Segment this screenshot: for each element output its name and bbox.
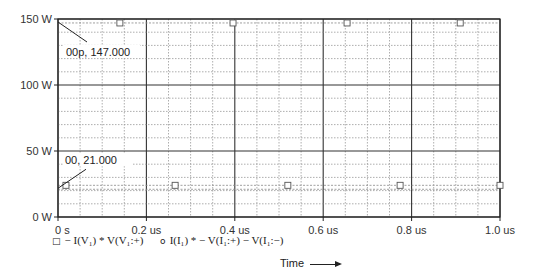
svg-text:0.8 us: 0.8 us	[397, 224, 427, 236]
right-arrow-icon	[310, 264, 340, 265]
x-axis-label: Time	[280, 257, 304, 269]
legend-item-power-v1: □− I(V₁) * V(V₁:+)	[52, 234, 143, 246]
svg-text:50 W: 50 W	[26, 145, 52, 157]
svg-text:00p, 147.000: 00p, 147.000	[66, 46, 130, 58]
legend-label: − I(V₁) * V(V₁:+)	[65, 234, 144, 246]
svg-text:1.0 us: 1.0 us	[485, 224, 515, 236]
annotations: 00p, 147.00000, 21.000	[58, 22, 140, 188]
svg-text:00, 21.000: 00, 21.000	[65, 154, 117, 166]
svg-text:150 W: 150 W	[20, 13, 52, 25]
legend: □− I(V₁) * V(V₁:+) οI(I₁) * − V(I₁:+) − …	[52, 234, 297, 246]
legend-item-power-i1: οI(I₁) * − V(I₁:+) − V(I₁:−)	[160, 234, 283, 246]
svg-text:0 W: 0 W	[32, 211, 52, 223]
square-marker-icon: □	[52, 236, 61, 246]
circle-marker-icon: ο	[160, 236, 166, 246]
svg-text:100 W: 100 W	[20, 79, 52, 91]
svg-text:0.6 us: 0.6 us	[308, 224, 338, 236]
x-axis-title: Time	[280, 257, 340, 269]
legend-label: I(I₁) * − V(I₁:+) − V(I₁:−)	[170, 234, 284, 246]
